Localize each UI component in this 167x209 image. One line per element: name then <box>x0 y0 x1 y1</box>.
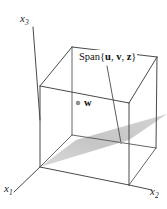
axis-label-x3: x3 <box>20 13 29 24</box>
axis-x1-line <box>14 167 40 192</box>
span-label-prefix: Span{ <box>79 51 105 62</box>
axis-label-x3-subscript: 3 <box>25 18 29 27</box>
cube-back-edges <box>40 47 156 185</box>
span-label-suffix: } <box>131 51 136 62</box>
axis-label-x1-subscript: 1 <box>9 188 13 197</box>
point-w-marker <box>76 101 80 105</box>
axis-label-x1: x1 <box>4 183 13 194</box>
span-figure: x3 x1 x2 Span{u, v, z} w <box>0 0 167 209</box>
cube-right-edges <box>156 57 157 148</box>
span-annotation-label: Span{u, v, z} <box>78 50 137 63</box>
span-leader-endpoint <box>120 142 122 144</box>
axis-x2-line <box>129 185 152 190</box>
axis-x3-line <box>33 27 40 120</box>
axis-label-x2-subscript: 2 <box>155 191 159 200</box>
point-w-label: w <box>84 98 92 109</box>
axis-label-x2: x2 <box>150 186 159 197</box>
